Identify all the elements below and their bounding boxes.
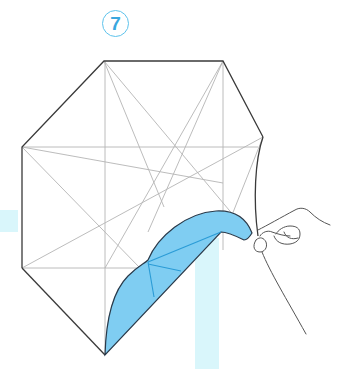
hand-icon	[254, 208, 330, 334]
origami-diagram: 7	[0, 0, 337, 369]
diagram-drawing	[0, 0, 337, 369]
blue-flap	[105, 211, 252, 355]
